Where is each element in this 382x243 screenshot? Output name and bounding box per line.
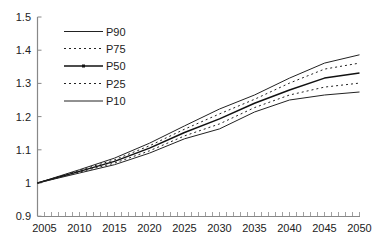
x-axis bbox=[38, 212, 361, 217]
series-line-p75 bbox=[38, 63, 360, 183]
line-chart: 2005201020152020202520302035204020452050… bbox=[0, 0, 382, 243]
y-tick-label: 1 bbox=[25, 177, 31, 189]
y-tick-label: 1.4 bbox=[16, 44, 31, 56]
legend-item-p25: P25 bbox=[64, 78, 126, 90]
x-axis-labels: 2005201020152020202520302035204020452050 bbox=[32, 222, 371, 234]
x-tick-label: 2030 bbox=[207, 222, 231, 234]
legend: P90 P75 P50 P25 P10 bbox=[64, 26, 126, 108]
x-tick-label: 2040 bbox=[277, 222, 301, 234]
y-axis bbox=[38, 17, 42, 216]
y-tick-label: 1.5 bbox=[16, 11, 31, 23]
y-axis-labels: 0.911.11.21.31.41.5 bbox=[16, 11, 31, 222]
legend-label: P25 bbox=[106, 78, 126, 90]
y-tick-label: 1.3 bbox=[16, 77, 31, 89]
legend-item-p50: P50 bbox=[64, 60, 126, 72]
legend-item-p90: P90 bbox=[64, 26, 126, 38]
x-tick-label: 2050 bbox=[347, 222, 371, 234]
y-tick-label: 1.2 bbox=[16, 111, 31, 123]
x-tick-label: 2010 bbox=[67, 222, 91, 234]
legend-label: P90 bbox=[106, 26, 126, 38]
x-tick-label: 2035 bbox=[242, 222, 266, 234]
legend-item-p75: P75 bbox=[64, 43, 126, 55]
x-tick-label: 2005 bbox=[32, 222, 56, 234]
x-tick-label: 2045 bbox=[312, 222, 336, 234]
series-lines bbox=[38, 55, 360, 183]
legend-label: P10 bbox=[106, 95, 126, 107]
x-tick-label: 2020 bbox=[137, 222, 161, 234]
y-tick-label: 0.9 bbox=[16, 210, 31, 222]
series-line-p50 bbox=[38, 73, 360, 183]
x-tick-label: 2015 bbox=[102, 222, 126, 234]
legend-item-p10: P10 bbox=[64, 95, 126, 107]
x-tick-label: 2025 bbox=[172, 222, 196, 234]
legend-label: P50 bbox=[106, 60, 126, 72]
legend-label: P75 bbox=[106, 43, 126, 55]
y-tick-label: 1.1 bbox=[16, 144, 31, 156]
